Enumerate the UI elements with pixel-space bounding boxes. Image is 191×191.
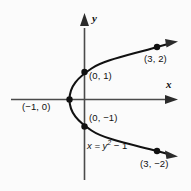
- point-label-3-2: (3, 2): [144, 53, 167, 64]
- point-label-neg1-0: (−1, 0): [22, 101, 50, 112]
- point-label-3-neg2: (3, −2): [140, 158, 168, 169]
- x-axis-arrowhead: [165, 95, 178, 104]
- point-label-0-1: (0, 1): [89, 70, 112, 81]
- point-dot-3-2: [154, 44, 160, 50]
- y-axis-label: y: [92, 12, 97, 24]
- upper-branch-arrowhead: [165, 39, 178, 48]
- equation-lhs: x = y: [87, 140, 107, 151]
- point-dot-3-neg2: [154, 148, 160, 154]
- point-label-0-neg1: (0, −1): [89, 112, 117, 123]
- point-dot-neg1-0: [66, 96, 72, 102]
- point-dot-0-neg1: [81, 123, 87, 129]
- parabola-figure: y x (0, 1) (−1, 0) (0, −1) (3, 2) (3, −2…: [0, 0, 191, 191]
- equation-label: x = y2 − 1: [87, 139, 127, 151]
- y-axis-arrowhead: [80, 13, 89, 26]
- point-dot-0-1: [81, 69, 87, 75]
- x-axis-label: x: [166, 78, 172, 90]
- equation-tail: − 1: [111, 140, 127, 151]
